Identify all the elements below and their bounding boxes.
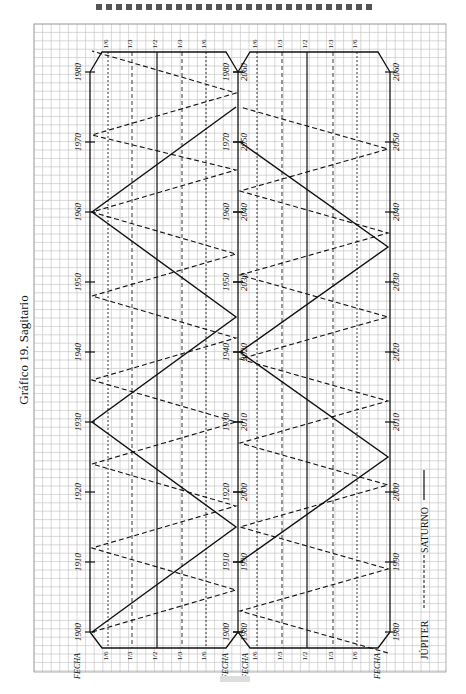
aspect-fraction-label: 1/6	[251, 651, 259, 660]
year-label: 2010	[391, 413, 401, 432]
aspect-fraction-label: 1/2	[151, 39, 159, 48]
aspect-fraction-label: 1/6	[200, 39, 208, 48]
year-label: 1930	[221, 413, 231, 432]
aspect-fraction-label: 1/3	[327, 39, 335, 48]
year-label: 1980	[221, 63, 231, 82]
year-label: 1980	[239, 623, 249, 642]
year-label: 1970	[221, 133, 231, 152]
aspect-fraction-label: 1/2	[301, 651, 309, 660]
aspect-fraction-label: 1/2	[151, 651, 159, 660]
fecha-label: FECHA	[373, 653, 382, 680]
year-label: 2030	[391, 273, 401, 292]
year-label: 2000	[391, 483, 401, 502]
year-label: 2060	[391, 63, 401, 82]
aspect-fraction-label: 1/6	[351, 39, 359, 48]
year-label: 1910	[221, 553, 231, 572]
year-label: 1980	[73, 63, 83, 82]
year-label: 1950	[73, 273, 83, 292]
year-label: 1960	[221, 203, 231, 222]
aspect-fraction-label: 1/3	[126, 651, 134, 660]
year-label: 1910	[73, 553, 83, 572]
year-label: 2000	[239, 483, 249, 502]
aspect-fraction-label: 1/6	[200, 651, 208, 660]
fecha-label: FECHA	[73, 653, 82, 680]
year-label: 2040	[391, 203, 401, 222]
year-label: 2020	[391, 343, 401, 362]
year-label: 1900	[221, 623, 231, 642]
year-label: 1940	[221, 343, 231, 362]
aspect-fraction-label: 1/6	[251, 39, 259, 48]
year-label: 1970	[73, 133, 83, 152]
year-label: 1950	[221, 273, 231, 292]
aspect-fraction-label: 1/3	[126, 39, 134, 48]
year-label: 1920	[221, 483, 231, 502]
year-label: 1940	[73, 343, 83, 362]
aspect-chart: 1900191019201930194019501960197019801900…	[0, 0, 466, 694]
legend-saturno: SATURNO	[419, 507, 430, 553]
year-label: 1980	[391, 623, 401, 642]
aspect-fraction-label: 1/6	[102, 651, 110, 660]
year-label: 2060	[239, 63, 249, 82]
page-number	[220, 676, 250, 682]
year-label: 1990	[391, 553, 401, 572]
aspect-fraction-label: 1/6	[351, 651, 359, 660]
chart-title: Gráfico 19. Sagitario	[16, 295, 31, 404]
year-label: 2010	[239, 413, 249, 432]
year-label: 1900	[73, 623, 83, 642]
legend: JÚPITERSATURNO	[419, 470, 430, 659]
aspect-fraction-label: 1/3	[176, 651, 184, 660]
aspect-fraction-label: 1/3	[276, 39, 284, 48]
aspect-fraction-label: 1/3	[176, 39, 184, 48]
legend-jupiter: JÚPITER	[419, 620, 430, 659]
aspect-fraction-label: 1/2	[301, 39, 309, 48]
aspect-fraction-label: 1/6	[102, 39, 110, 48]
year-label: 1960	[73, 203, 83, 222]
year-label: 2050	[391, 133, 401, 152]
aspect-fraction-label: 1/3	[276, 651, 284, 660]
aspect-fraction-label: 1/3	[327, 651, 335, 660]
year-label: 2040	[239, 203, 249, 222]
year-label: 1920	[73, 483, 83, 502]
year-label: 1930	[73, 413, 83, 432]
